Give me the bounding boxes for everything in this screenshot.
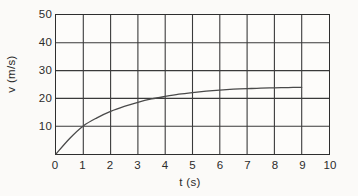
x-tick-10: 10 <box>315 159 345 171</box>
y-tick-40: 40 <box>24 36 52 48</box>
x-tick-4: 4 <box>150 159 180 171</box>
x-tick-9: 9 <box>288 159 318 171</box>
y-tick-20: 20 <box>24 92 52 104</box>
x-tick-6: 6 <box>205 159 235 171</box>
x-axis-tick-labels: 0 1 2 3 4 5 6 7 8 9 10 <box>0 159 358 175</box>
x-axis-title: t (s) <box>0 176 358 188</box>
y-tick-50: 50 <box>24 8 52 20</box>
y-tick-10: 10 <box>24 120 52 132</box>
x-tick-5: 5 <box>178 159 208 171</box>
x-tick-8: 8 <box>260 159 290 171</box>
x-tick-0: 0 <box>40 159 70 171</box>
velocity-curve-path <box>56 87 302 154</box>
plot-area <box>55 14 330 155</box>
x-tick-3: 3 <box>123 159 153 171</box>
velocity-time-graph-figure: 50 40 30 20 10 <box>0 0 358 196</box>
y-tick-30: 30 <box>24 64 52 76</box>
x-tick-2: 2 <box>95 159 125 171</box>
velocity-curve <box>56 15 329 154</box>
x-axis-title-text: t (s) <box>157 176 200 188</box>
x-tick-7: 7 <box>233 159 263 171</box>
x-tick-1: 1 <box>68 159 98 171</box>
y-axis-title: v (m/s) <box>5 39 17 109</box>
